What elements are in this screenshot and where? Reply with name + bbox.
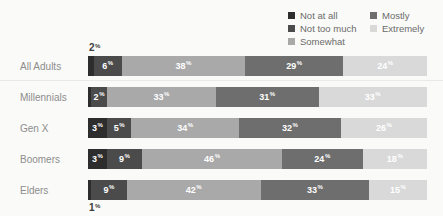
bar-segment: 15% <box>369 180 427 200</box>
percent-sign: % <box>388 60 393 66</box>
legend-item-not-too-much: Not too much <box>288 23 360 33</box>
bar-segment: 5% <box>107 118 131 138</box>
legend-label: Not at all <box>300 10 338 21</box>
row-elders: Elders 9%42%33%15% <box>0 180 443 200</box>
segment-value: 24 <box>314 154 324 164</box>
segment-value: 3 <box>92 123 97 133</box>
segment-value: 31 <box>259 92 269 102</box>
percent-sign: % <box>99 91 104 97</box>
stacked-bar-millennials: 2%33%31%33% <box>88 87 427 107</box>
percent-sign: % <box>186 60 191 66</box>
bar-segment: 31% <box>216 87 319 107</box>
category-label: Elders <box>0 185 88 196</box>
percent-sign: % <box>164 91 169 97</box>
category-label: Gen X <box>0 123 88 134</box>
bar-segment: 6% <box>94 56 122 76</box>
legend-item-not-at-all: Not at all <box>288 10 360 20</box>
segment-value: 29 <box>286 61 296 71</box>
percent-sign: % <box>387 122 392 128</box>
row-gen-x: Gen X 3%5%34%32%26% <box>0 118 443 138</box>
legend-swatch-extremely <box>370 25 377 32</box>
segment-value: 24 <box>377 61 387 71</box>
percent-sign: % <box>98 122 103 128</box>
bar-segment: 2% <box>91 87 107 107</box>
legend-swatch-not-too-much <box>288 25 295 32</box>
category-label: Boomers <box>0 154 88 165</box>
segment-value: 9 <box>119 154 124 164</box>
segment-value: 33 <box>154 92 164 102</box>
bar-segment: 29% <box>245 56 343 76</box>
bar-segment: 46% <box>142 149 282 169</box>
legend-column-2: Mostly Extremely <box>370 10 424 46</box>
legend-column-1: Not at all Not too much Somewhat <box>288 10 360 46</box>
bar-segment: 38% <box>122 56 246 76</box>
percent-sign: % <box>98 153 103 159</box>
row-all-adults: All Adults 6%38%29%24% <box>0 56 443 76</box>
percent-sign: % <box>125 153 130 159</box>
annotation-not-at-all-all-adults: 2% <box>89 42 100 53</box>
category-label: All Adults <box>0 61 88 72</box>
segment-value: 26 <box>376 123 386 133</box>
percent-sign: % <box>375 91 380 97</box>
annotation-value: 2 <box>89 42 95 53</box>
segment-value: 34 <box>177 123 187 133</box>
legend-swatch-somewhat <box>288 38 295 45</box>
stacked-bar-boomers: 3%9%46%24%18% <box>88 149 427 169</box>
segment-value: 42 <box>186 185 196 195</box>
legend-swatch-not-at-all <box>288 12 295 19</box>
bar-segment: 33% <box>319 87 427 107</box>
bar-segment: 24% <box>343 56 427 76</box>
percent-sign: % <box>325 153 330 159</box>
segment-value: 33 <box>307 185 317 195</box>
bar-segment: 32% <box>239 118 341 138</box>
percent-sign: % <box>270 91 275 97</box>
category-label: Millennials <box>0 92 88 103</box>
row-boomers: Boomers 3%9%46%24%18% <box>0 149 443 169</box>
bar-segment: 34% <box>131 118 239 138</box>
percent-sign: % <box>401 184 406 190</box>
percent-sign: % <box>196 184 201 190</box>
percent-sign: % <box>119 122 124 128</box>
stacked-bar-gen-x: 3%5%34%32%26% <box>88 118 427 138</box>
stacked-bar-elders: 9%42%33%15% <box>88 180 427 200</box>
percent-sign: % <box>293 122 298 128</box>
legend-label: Extremely <box>382 23 424 34</box>
percent-sign: % <box>297 60 302 66</box>
legend-item-mostly: Mostly <box>370 10 424 20</box>
segment-value: 33 <box>365 92 375 102</box>
bar-segment: 9% <box>107 149 142 169</box>
stacked-bar-chart: Not at all Not too much Somewhat Mostly … <box>0 0 443 216</box>
segment-value: 46 <box>204 154 214 164</box>
bar-segment: 3% <box>88 149 107 169</box>
legend-item-somewhat: Somewhat <box>288 36 360 46</box>
legend-label: Somewhat <box>300 36 345 47</box>
percent-sign: % <box>317 184 322 190</box>
all-adults-separator-line <box>0 80 443 81</box>
legend-label: Mostly <box>382 10 409 21</box>
bar-segment: 9% <box>91 180 127 200</box>
bar-segment: 3% <box>88 118 107 138</box>
percent-sign: % <box>109 184 114 190</box>
percent-sign: % <box>397 153 402 159</box>
legend-label: Not too much <box>300 23 357 34</box>
bar-segment: 26% <box>341 118 427 138</box>
stacked-bar-all-adults: 6%38%29%24% <box>88 56 427 76</box>
legend-swatch-mostly <box>370 12 377 19</box>
bar-segment: 33% <box>261 180 369 200</box>
segment-value: 6 <box>102 61 107 71</box>
bar-segment: 18% <box>363 149 427 169</box>
segment-value: 3 <box>92 154 97 164</box>
row-millennials: Millennials 2%33%31%33% <box>0 87 443 107</box>
percent-sign: % <box>188 122 193 128</box>
annotation-not-at-all-elders: 1% <box>89 202 100 213</box>
segment-value: 32 <box>282 123 292 133</box>
segment-value: 2 <box>94 92 99 102</box>
percent-sign: % <box>95 203 100 209</box>
bar-segment: 42% <box>127 180 261 200</box>
segment-value: 9 <box>103 185 108 195</box>
segment-value: 5 <box>114 123 119 133</box>
legend-item-extremely: Extremely <box>370 23 424 33</box>
segment-value: 38 <box>175 61 185 71</box>
segment-value: 15 <box>390 185 400 195</box>
percent-sign: % <box>95 43 100 49</box>
